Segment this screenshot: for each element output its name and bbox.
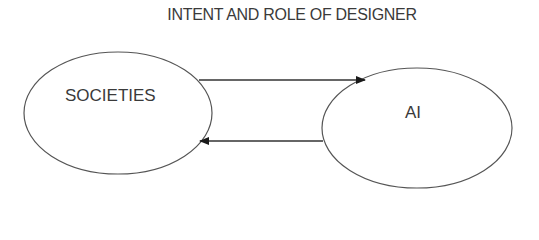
ai-node: [322, 68, 512, 188]
ai-label: AI: [405, 103, 421, 123]
societies-label: SOCIETIES: [65, 86, 156, 106]
societies-node: [24, 52, 212, 174]
